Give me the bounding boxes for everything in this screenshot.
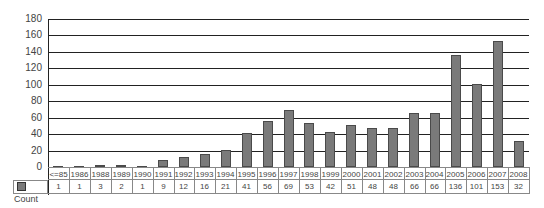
category-label: 1996: [257, 167, 279, 180]
value-cell: 69: [278, 180, 300, 194]
y-tick-label: 180: [0, 14, 42, 24]
value-cell: 1: [132, 180, 154, 194]
y-tick-label: 0: [0, 162, 42, 172]
value-cell: 12: [173, 180, 195, 194]
legend-label: Count: [14, 194, 38, 204]
bar-1992: [179, 157, 189, 167]
category-label: 2001: [362, 167, 384, 180]
category-label: 2004: [424, 167, 446, 180]
category-label: 1999: [320, 167, 342, 180]
value-cell: 32: [508, 180, 530, 194]
value-cell: 136: [445, 180, 467, 194]
category-label: 1989: [111, 167, 133, 180]
gridline: [48, 52, 529, 53]
value-cell: 16: [194, 180, 216, 194]
category-label: 1988: [90, 167, 112, 180]
category-label: 1995: [236, 167, 258, 180]
category-label: 2003: [404, 167, 426, 180]
bar-2004: [430, 113, 440, 167]
category-label: 1997: [278, 167, 300, 180]
bar-1997: [284, 110, 294, 167]
bar-1996: [263, 121, 273, 167]
value-cell: 153: [487, 180, 509, 194]
bar-2002: [388, 128, 398, 167]
category-label: 2006: [466, 167, 488, 180]
value-cell: 41: [236, 180, 258, 194]
category-label: 1991: [153, 167, 175, 180]
bar-2006: [472, 84, 482, 167]
value-cell: 42: [320, 180, 342, 194]
y-tick-label: 160: [0, 30, 42, 40]
value-cell: 2: [111, 180, 133, 194]
y-tick-label: 100: [0, 80, 42, 90]
bar-1993: [200, 154, 210, 167]
y-tick-label: 80: [0, 96, 42, 106]
value-cell: 3: [90, 180, 112, 194]
value-cell: 56: [257, 180, 279, 194]
category-label: 1994: [215, 167, 237, 180]
y-tick-label: 20: [0, 146, 42, 156]
bar-2005: [451, 55, 461, 167]
bar-1999: [325, 132, 335, 167]
value-cell: 66: [424, 180, 446, 194]
value-cell: 1: [48, 180, 70, 194]
value-cell: 51: [341, 180, 363, 194]
category-label: 2002: [383, 167, 405, 180]
category-label: 1986: [69, 167, 91, 180]
bar-chart: Count 020406080100120140160180<=85119861…: [0, 0, 544, 208]
bar-1994: [221, 150, 231, 167]
category-label: 1993: [194, 167, 216, 180]
bar-2003: [409, 113, 419, 167]
bar-1998: [304, 123, 314, 167]
value-cell: 48: [362, 180, 384, 194]
category-label: 2007: [487, 167, 509, 180]
y-tick-label: 120: [0, 63, 42, 73]
category-label: 1998: [299, 167, 321, 180]
value-cell: 21: [215, 180, 237, 194]
gridline: [48, 19, 529, 20]
bar-2007: [493, 41, 503, 167]
value-cell: 9: [153, 180, 175, 194]
gridline: [48, 35, 529, 36]
legend-swatch: [17, 182, 26, 191]
bar-2001: [367, 128, 377, 167]
category-label: 1990: [132, 167, 154, 180]
value-cell: 101: [466, 180, 488, 194]
bar-2008: [514, 141, 524, 167]
y-tick-label: 140: [0, 47, 42, 57]
category-label: 2000: [341, 167, 363, 180]
y-tick-label: 60: [0, 113, 42, 123]
bar-1995: [242, 133, 252, 167]
y-tick-label: 40: [0, 129, 42, 139]
bar-2000: [346, 125, 356, 167]
category-label: 1992: [173, 167, 195, 180]
value-cell: 1: [69, 180, 91, 194]
bar-1991: [158, 160, 168, 167]
value-cell: 53: [299, 180, 321, 194]
category-label: 2008: [508, 167, 530, 180]
value-cell: 48: [383, 180, 405, 194]
value-cell: 66: [404, 180, 426, 194]
legend-entry-count: Count: [13, 180, 48, 194]
category-label: <=85: [48, 167, 70, 180]
category-label: 2005: [445, 167, 467, 180]
